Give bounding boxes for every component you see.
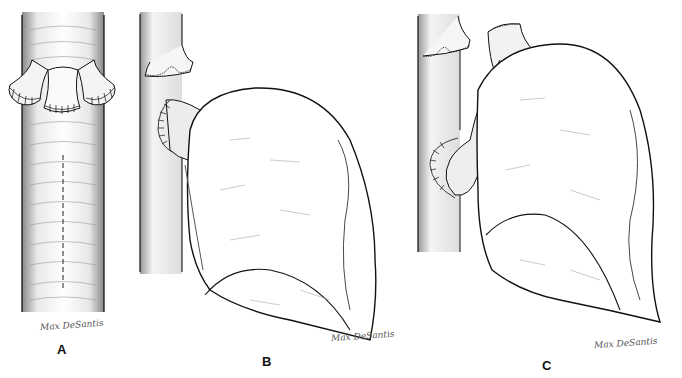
panel-a-drawing	[9, 12, 115, 312]
panel-c-label: C	[542, 358, 551, 373]
panel-a-label: A	[57, 342, 66, 357]
panel-c-drawing	[418, 14, 660, 322]
panel-b-drawing	[140, 12, 376, 340]
panel-b-label: B	[262, 354, 271, 369]
